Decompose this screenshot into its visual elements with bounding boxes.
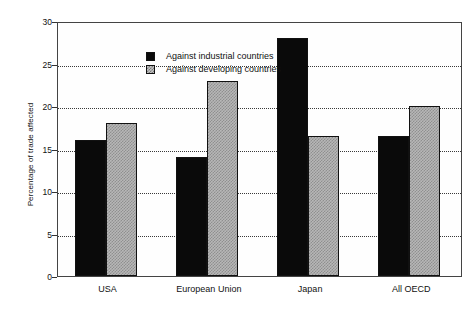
bar	[308, 136, 339, 276]
legend-label: Against industrial countries	[166, 51, 274, 61]
y-tick-label: 10	[12, 187, 52, 197]
bar	[75, 140, 106, 276]
bar	[106, 123, 137, 276]
x-tick-label: European Union	[176, 284, 241, 294]
legend: Against industrial countriesAgainst deve…	[146, 50, 281, 76]
bar	[176, 157, 207, 276]
bar	[409, 106, 440, 276]
bar-chart: Percentage of trade affected 05101520253…	[0, 0, 469, 312]
x-tick-label: Japan	[298, 284, 323, 294]
y-tick-label: 20	[12, 102, 52, 112]
y-tick-label: 25	[12, 60, 52, 70]
legend-swatch-icon	[146, 52, 155, 61]
bar	[277, 38, 308, 276]
y-tick-mark	[52, 277, 57, 278]
legend-item: Against industrial countries	[146, 50, 281, 62]
x-tick-label: USA	[98, 284, 117, 294]
bar	[207, 81, 238, 277]
x-tick-label: All OECD	[392, 284, 431, 294]
y-tick-label: 0	[12, 272, 52, 282]
gridline	[58, 108, 461, 109]
plot-area: Against industrial countriesAgainst deve…	[57, 22, 462, 277]
bar	[378, 136, 409, 276]
y-tick-label: 5	[12, 230, 52, 240]
legend-swatch-icon	[146, 65, 155, 74]
legend-label: Against developing countries	[166, 64, 281, 74]
y-tick-label: 30	[12, 17, 52, 27]
y-tick-label: 15	[12, 145, 52, 155]
legend-item: Against developing countries	[146, 63, 281, 75]
